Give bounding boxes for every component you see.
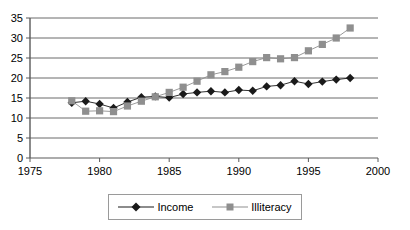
data-point-illiteracy bbox=[96, 107, 103, 114]
data-point-illiteracy bbox=[166, 89, 173, 96]
diamond-marker-icon bbox=[118, 201, 154, 213]
data-point-illiteracy bbox=[305, 47, 312, 54]
data-point-illiteracy bbox=[152, 93, 159, 100]
x-axis-tick-label: 2000 bbox=[366, 165, 390, 177]
data-point-income bbox=[262, 82, 270, 90]
data-point-illiteracy bbox=[319, 41, 326, 48]
data-point-illiteracy bbox=[235, 64, 242, 71]
data-point-illiteracy bbox=[347, 24, 354, 31]
data-point-illiteracy bbox=[110, 108, 117, 115]
data-point-income bbox=[235, 86, 243, 94]
data-point-illiteracy bbox=[249, 58, 256, 65]
chart-container: 05101520253035 197519801985199019952000 … bbox=[0, 0, 410, 230]
data-point-illiteracy bbox=[124, 102, 131, 109]
data-point-illiteracy bbox=[333, 34, 340, 41]
y-axis-ticks-group: 05101520253035 bbox=[11, 12, 30, 164]
legend-label-illiteracy: Illiteracy bbox=[251, 201, 291, 213]
plot-area: 05101520253035 197519801985199019952000 bbox=[0, 0, 410, 178]
y-axis-tick-label: 25 bbox=[11, 52, 23, 64]
data-point-income bbox=[332, 75, 340, 83]
data-point-illiteracy bbox=[82, 108, 89, 115]
y-axis-tick-label: 15 bbox=[11, 92, 23, 104]
data-point-income bbox=[207, 87, 215, 95]
series-lines-group bbox=[72, 28, 350, 112]
axes-group bbox=[30, 18, 378, 158]
y-axis-tick-label: 10 bbox=[11, 112, 23, 124]
data-point-illiteracy bbox=[68, 97, 75, 104]
x-axis-ticks-group: 197519801985199019952000 bbox=[18, 158, 390, 177]
data-point-income bbox=[179, 90, 187, 98]
data-point-income bbox=[346, 74, 354, 82]
data-point-income bbox=[193, 88, 201, 96]
data-point-illiteracy bbox=[138, 98, 145, 105]
x-axis-tick-label: 1990 bbox=[227, 165, 251, 177]
data-point-income bbox=[249, 87, 257, 95]
y-axis-tick-label: 5 bbox=[17, 132, 23, 144]
data-point-illiteracy bbox=[207, 71, 214, 78]
data-point-income bbox=[304, 80, 312, 88]
x-axis-tick-label: 1980 bbox=[87, 165, 111, 177]
data-point-income bbox=[95, 100, 103, 108]
legend-label-income: Income bbox=[157, 201, 193, 213]
x-axis-tick-label: 1975 bbox=[18, 165, 42, 177]
data-point-illiteracy bbox=[291, 54, 298, 61]
data-point-income bbox=[318, 77, 326, 85]
legend-entry-income: Income bbox=[118, 201, 193, 213]
chart-svg: 05101520253035 197519801985199019952000 bbox=[0, 0, 410, 178]
y-axis-tick-label: 30 bbox=[11, 32, 23, 44]
data-point-illiteracy bbox=[263, 54, 270, 61]
y-axis-tick-label: 20 bbox=[11, 72, 23, 84]
y-axis-tick-label: 0 bbox=[17, 152, 23, 164]
x-axis-tick-label: 1995 bbox=[296, 165, 320, 177]
data-point-illiteracy bbox=[221, 68, 228, 75]
data-point-illiteracy bbox=[277, 55, 284, 62]
x-axis-tick-label: 1985 bbox=[157, 165, 181, 177]
square-marker-icon bbox=[212, 201, 248, 213]
data-point-income bbox=[276, 81, 284, 89]
data-point-income bbox=[221, 88, 229, 96]
data-point-illiteracy bbox=[193, 78, 200, 85]
data-point-illiteracy bbox=[180, 84, 187, 91]
legend-entry-illiteracy: Illiteracy bbox=[212, 201, 291, 213]
y-axis-tick-label: 35 bbox=[11, 12, 23, 24]
series-line-illiteracy bbox=[72, 28, 350, 112]
chart-legend: Income Illiteracy bbox=[108, 194, 302, 220]
